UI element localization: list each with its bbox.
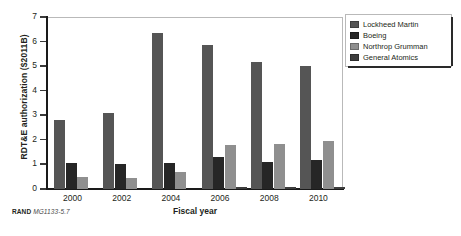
figure-number: MG1133-5.7 (33, 208, 70, 215)
bar (77, 177, 88, 189)
bar (126, 178, 137, 189)
source-label: RAND (12, 208, 31, 215)
bar (274, 144, 285, 189)
legend-item-northrop-grumman: Northrop Grumman (350, 41, 447, 51)
bar (175, 172, 186, 189)
bar (115, 164, 126, 189)
bar (262, 162, 273, 189)
y-tick-label: 0 (32, 183, 37, 194)
y-tick-mark (40, 163, 46, 165)
y-tick-mark (40, 41, 46, 43)
y-axis-title: RDT&E authorization ($2011B) (19, 12, 29, 182)
legend-swatch-boeing (350, 32, 359, 39)
y-tick-mark (40, 188, 46, 190)
y-tick-mark (40, 139, 46, 141)
y-tick-label: 6 (32, 36, 37, 47)
bar (323, 141, 334, 189)
legend-item-boeing: Boeing (350, 30, 447, 40)
bar-group (97, 17, 146, 189)
x-tick-label: 2010 (293, 193, 343, 203)
bar-group (146, 17, 195, 189)
legend-swatch-northrop-grumman (350, 43, 359, 50)
bar (225, 145, 236, 189)
x-tick-label: 2002 (97, 193, 147, 203)
bar (66, 163, 77, 189)
figure-bar-chart: RDT&E authorization ($2011B) 01234567 20… (0, 0, 461, 236)
y-tick-mark (40, 114, 46, 116)
y-tick-label: 1 (32, 158, 37, 169)
bar (300, 66, 311, 189)
bar (334, 187, 345, 189)
x-tick-label: 2008 (244, 193, 294, 203)
bar (251, 62, 262, 189)
y-tick-label: 7 (32, 11, 37, 22)
x-tick-label: 2000 (48, 193, 98, 203)
legend-item-lockheed-martin: Lockheed Martin (350, 19, 447, 29)
y-tick-mark (40, 16, 46, 18)
bar (103, 113, 114, 189)
y-tick-label: 2 (32, 134, 37, 145)
legend-label: Northrop Grumman (363, 42, 428, 51)
bar (311, 160, 322, 189)
bar (152, 33, 163, 189)
legend-swatch-general-atomics (350, 54, 359, 61)
bar (54, 120, 65, 189)
chart-legend: Lockheed Martin Boeing Northrop Grumman … (345, 14, 452, 67)
x-axis-title: Fiscal year (46, 206, 344, 216)
y-tick-mark (40, 90, 46, 92)
legend-label: General Atomics (363, 53, 418, 62)
y-tick-label: 4 (32, 85, 37, 96)
legend-item-general-atomics: General Atomics (350, 52, 447, 62)
bar-group (196, 17, 245, 189)
bar-series-container (48, 17, 343, 189)
legend-swatch-lockheed-martin (350, 21, 359, 28)
bar (164, 163, 175, 189)
legend-label: Lockheed Martin (363, 20, 418, 29)
y-tick-label: 3 (32, 109, 37, 120)
bar (202, 45, 213, 189)
y-tick-mark (40, 65, 46, 67)
y-tick-label: 5 (32, 60, 37, 71)
x-tick-label: 2006 (195, 193, 245, 203)
figure-footer: RANDMG1133-5.7 (12, 208, 70, 215)
bar-group (294, 17, 343, 189)
bar-group (48, 17, 97, 189)
bar-group (245, 17, 294, 189)
legend-label: Boeing (363, 31, 386, 40)
x-tick-label: 2004 (146, 193, 196, 203)
bar (213, 157, 224, 189)
